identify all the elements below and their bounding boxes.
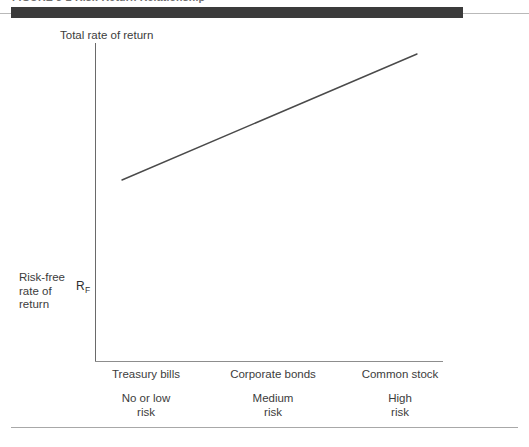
- plot-area: Total rate of return Risk-free rate of r…: [0, 0, 529, 447]
- risk-free-line-3: return: [19, 298, 49, 310]
- y-axis-title: Total rate of return: [60, 29, 153, 41]
- risk-free-symbol-subscript: F: [85, 285, 90, 295]
- risk-level-line-1: No or low: [122, 392, 171, 404]
- risk-free-symbol-letter: R: [76, 279, 85, 293]
- risk-free-rate-symbol: RF: [76, 279, 90, 293]
- risk-free-rate-label: Risk-free rate of return: [19, 271, 65, 312]
- risk-level-line-1: High: [388, 392, 412, 404]
- risk-level-line-2: risk: [137, 406, 155, 418]
- x-axis-line: [95, 361, 443, 362]
- risk-free-line-2: rate of: [19, 285, 52, 297]
- x-tick-label-corporate-bonds: Corporate bonds: [230, 368, 316, 380]
- risk-level-common-stock: High risk: [388, 392, 412, 419]
- figure-bottom-rule: [11, 427, 518, 428]
- y-axis-line: [95, 43, 96, 362]
- risk-level-corporate-bonds: Medium risk: [253, 392, 294, 419]
- risk-level-line-2: risk: [391, 406, 409, 418]
- figure-container: FIGURE 5-2 Risk-Return Relationship Tota…: [0, 0, 529, 447]
- risk-level-line-2: risk: [264, 406, 282, 418]
- x-tick-label-common-stock: Common stock: [362, 368, 439, 380]
- risk-level-line-1: Medium: [253, 392, 294, 404]
- x-tick-label-treasury-bills: Treasury bills: [112, 368, 180, 380]
- total-return-line: [122, 54, 417, 180]
- risk-level-treasury-bills: No or low risk: [122, 392, 171, 419]
- risk-free-line-1: Risk-free: [19, 271, 65, 283]
